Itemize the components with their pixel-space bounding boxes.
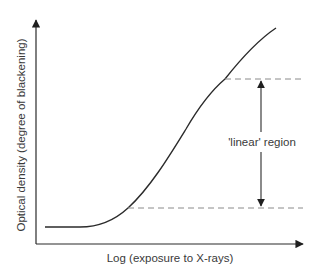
x-axis-label: Log (exposure to X-rays) [107,252,234,264]
linear-region-label: 'linear' region [228,136,296,148]
characteristic-curve [45,28,276,227]
chart-canvas: 'linear' region Log (exposure to X-rays)… [0,0,323,273]
y-axis-label: Optical density (degree of blackening) [15,38,27,231]
